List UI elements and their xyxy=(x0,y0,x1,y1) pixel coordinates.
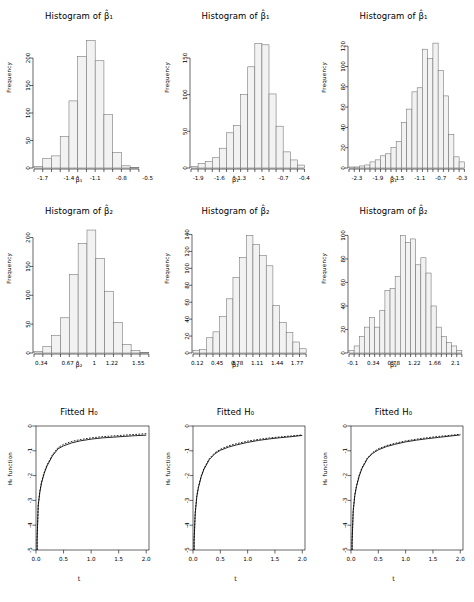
y-tick-label: 0 xyxy=(340,351,346,355)
histogram-bar xyxy=(411,239,416,353)
plot-area: 0-1-2-3-4-50.00.51.01.52.0 xyxy=(193,426,305,550)
y-tick-label: 60 xyxy=(340,103,346,111)
y-axis-label: Frequency xyxy=(164,253,170,284)
panel-title: Histogram of β̂₁ xyxy=(158,11,313,21)
y-tick-label: 150 xyxy=(25,80,31,91)
y-tick-label: 150 xyxy=(25,261,31,272)
plot-area: 0-1-2-3-4-50.00.51.01.52.0 xyxy=(351,426,463,550)
histogram-bar xyxy=(280,323,287,353)
histogram-bar xyxy=(34,166,43,168)
y-tick-label: 20 xyxy=(184,332,190,340)
plot-area: 0-1-2-3-4-50.00.51.01.52.0 xyxy=(36,426,149,550)
x-axis-label: β̂₁ xyxy=(313,176,474,184)
histogram-bar xyxy=(34,351,43,353)
histogram-bar xyxy=(446,342,451,353)
panel-fitted-h0-col2: Fitted H₀ H₀ function 0-1-2-3-4-50.00.51… xyxy=(158,380,313,602)
y-tick-label: 80 xyxy=(184,281,190,289)
histogram-bar xyxy=(121,166,130,168)
histogram-bar xyxy=(60,318,69,353)
y-tick-label: 0 xyxy=(184,351,190,355)
histogram-bar xyxy=(416,265,421,353)
x-tick-label: 2.0 xyxy=(456,556,465,562)
histogram-bar xyxy=(359,337,364,353)
x-tick-label: 0.5 xyxy=(216,556,225,562)
plot-area: 050100150-1.9-1.6-1.3-1-0.7-0.4 xyxy=(191,36,308,168)
histogram-bar xyxy=(449,134,454,168)
histogram-bar xyxy=(380,156,385,168)
histogram-bar xyxy=(60,137,69,168)
x-tick-label: 1.5 xyxy=(428,556,437,562)
histogram-bar xyxy=(198,164,205,168)
histogram-bar xyxy=(104,115,113,168)
panel-hist-b2-col2: Histogram of β̂₂ Frequency 0204060801001… xyxy=(158,195,313,380)
y-tick-label: 100 xyxy=(340,230,346,241)
histogram-bar xyxy=(375,327,380,353)
histogram-bar xyxy=(386,154,391,168)
y-tick-label: 40 xyxy=(340,123,346,131)
plot-area: 020406080100120-2.3-1.9-1.5-1.1-0.7-0.3 xyxy=(349,36,467,168)
histogram-bar xyxy=(255,43,262,168)
histogram-bar xyxy=(354,346,359,353)
histogram-bar xyxy=(297,165,304,168)
y-tick-label: 40 xyxy=(184,315,190,323)
histogram-svg: 020406080100120-2.3-1.9-1.5-1.1-0.7-0.3 xyxy=(349,36,467,168)
curve-fitted xyxy=(194,435,302,550)
histogram-bar xyxy=(191,167,198,168)
y-tick-label: 20 xyxy=(340,144,346,152)
x-tick-label: 2.0 xyxy=(142,556,151,562)
histogram-bar xyxy=(246,235,253,353)
line-chart-svg: 0-1-2-3-4-50.00.51.01.52.0 xyxy=(351,426,463,550)
y-tick-label: 120 xyxy=(340,40,346,51)
y-tick-label: -3 xyxy=(27,497,33,503)
curve-true xyxy=(194,435,302,550)
histogram-bar xyxy=(421,258,426,353)
panel-title: Fitted H₀ xyxy=(0,407,158,417)
y-tick-label: -1 xyxy=(184,448,190,454)
y-tick-label: 0 xyxy=(184,424,190,428)
histogram-bar xyxy=(260,256,267,353)
plot-area: 050100150200-1.7-1.4-1.1-0.8-0.5 xyxy=(34,36,152,168)
y-axis-label: H₀ function xyxy=(322,452,328,485)
y-axis-label: Frequency xyxy=(6,253,12,284)
panel-title: Histogram of β̂₁ xyxy=(0,11,158,21)
histogram-bar xyxy=(122,344,131,353)
figure-panel-grid: Histogram of β̂₁ Frequency 050100150200-… xyxy=(0,0,474,602)
y-axis-label: H₀ function xyxy=(7,452,13,485)
y-tick-label: -1 xyxy=(27,448,33,454)
x-tick-label: 1.5 xyxy=(114,556,123,562)
panel-hist-b2-col3: Histogram of β̂₂ Frequency 020406080100-… xyxy=(313,195,474,380)
histogram-bar xyxy=(391,148,396,168)
histogram-bar xyxy=(234,125,241,168)
y-tick-label: 0 xyxy=(342,424,348,428)
histogram-bar xyxy=(390,288,395,353)
y-tick-label: -2 xyxy=(27,473,33,479)
y-tick-label: 140 xyxy=(184,229,190,240)
histogram-bar xyxy=(431,306,436,353)
histogram-bar xyxy=(273,306,280,353)
panel-hist-b2-col1: Histogram of β̂₂ Frequency 0501001502000… xyxy=(0,195,158,380)
histogram-bar xyxy=(78,56,87,168)
histogram-bar xyxy=(266,266,273,353)
histogram-bar xyxy=(262,45,269,168)
histogram-bar xyxy=(131,351,140,353)
y-tick-label: 100 xyxy=(25,107,31,118)
histogram-bar xyxy=(370,318,375,353)
y-tick-label: -4 xyxy=(342,522,348,528)
y-tick-label: -3 xyxy=(184,497,190,503)
histogram-bar xyxy=(200,350,207,353)
histogram-bar xyxy=(370,162,375,168)
histogram-bar xyxy=(69,274,78,353)
y-axis-label: Frequency xyxy=(164,62,170,93)
histogram-bar xyxy=(457,351,462,353)
x-tick-label: 1.5 xyxy=(270,556,279,562)
histogram-bar xyxy=(441,337,446,353)
y-tick-label: -3 xyxy=(342,497,348,503)
panel-title: Histogram of β̂₁ xyxy=(313,11,474,21)
y-tick-label: 60 xyxy=(184,298,190,306)
x-axis-label: t xyxy=(313,575,474,583)
histogram-svg: 0501001502000.340.6711.221.55 xyxy=(34,226,152,353)
y-tick-label: 50 xyxy=(25,137,31,145)
histogram-bar xyxy=(359,166,364,168)
y-tick-label: -4 xyxy=(184,522,190,528)
histogram-bar xyxy=(293,342,300,353)
